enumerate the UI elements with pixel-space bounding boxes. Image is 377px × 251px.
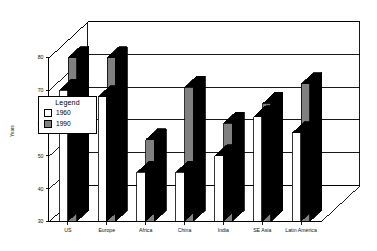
- svg-text:40: 40: [38, 186, 44, 192]
- x-tick-label: India: [218, 227, 229, 233]
- legend-item-1960: 1960: [39, 107, 96, 118]
- svg-text:80: 80: [38, 54, 44, 60]
- legend-item-1990: 1990: [39, 118, 96, 129]
- x-tick-label: US: [64, 227, 72, 233]
- x-axis: USEuropeAfricaChinaIndiaSE AsiaLatin Ame…: [49, 222, 321, 233]
- x-tick-label: SE Asia: [253, 227, 271, 233]
- y-axis: 304050607080: [38, 54, 49, 224]
- svg-text:30: 30: [38, 218, 44, 224]
- legend-swatch-1990: [44, 120, 52, 128]
- legend-swatch-1960: [44, 109, 52, 117]
- svg-text:50: 50: [38, 153, 44, 159]
- y-axis-title: Years: [10, 125, 15, 137]
- x-tick-label: Africa: [139, 227, 152, 233]
- x-tick-label: Europe: [98, 227, 115, 233]
- x-tick-label: Latin America: [285, 227, 317, 233]
- chart-root: 304050607080 USEuropeAfricaChinaIndiaSE …: [0, 0, 377, 251]
- svg-text:Years: Years: [10, 125, 15, 137]
- svg-text:70: 70: [38, 87, 44, 93]
- x-tick-label: China: [178, 227, 192, 233]
- legend-title: Legend: [39, 97, 96, 107]
- legend-label-1960: 1960: [56, 109, 71, 117]
- legend-box: Legend 1960 1990: [38, 96, 97, 134]
- legend-label-1990: 1990: [56, 120, 71, 128]
